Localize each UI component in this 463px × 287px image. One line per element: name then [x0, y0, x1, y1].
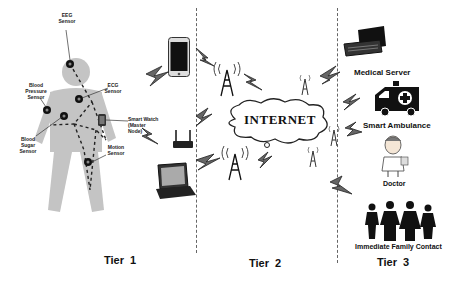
tier-1-label: Tier 1 [104, 254, 136, 266]
doctor-icon [380, 135, 410, 177]
smart-ambulance-label: Smart Ambulance [363, 121, 431, 130]
smart-ambulance-icon [373, 81, 421, 117]
medical-server-label: Medical Server [354, 68, 410, 77]
tier-2-label: Tier 2 [249, 257, 281, 269]
doctor-label: Doctor [383, 180, 406, 187]
immediate-family-contact-label: Immediate Family Contact [355, 243, 442, 250]
tier-3-label: Tier 3 [377, 256, 409, 268]
family-icon [361, 201, 439, 241]
medical-server-icon [344, 26, 390, 62]
